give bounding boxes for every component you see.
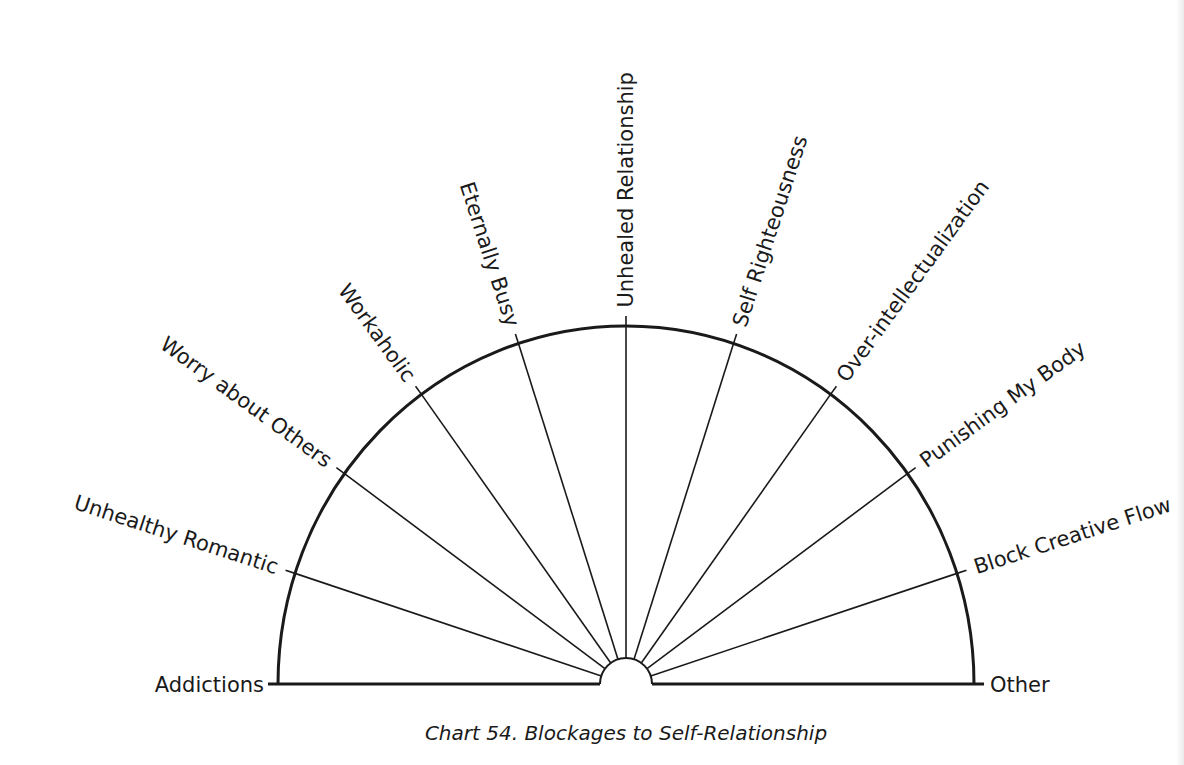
category-label: Block Creative Flow (971, 493, 1174, 580)
tick-mark (515, 334, 518, 344)
spoke-line (421, 394, 610, 663)
spoke-line (344, 474, 605, 669)
category-label: Unhealed Relationship (614, 72, 638, 307)
category-label: Addictions (155, 673, 264, 697)
spoke-line (641, 394, 830, 663)
category-label: Workaholic (333, 279, 420, 386)
tick-mark (908, 468, 916, 474)
category-label: Punishing My Body (915, 336, 1090, 472)
spoke-line (651, 573, 957, 676)
tick-mark (286, 570, 296, 573)
tick-mark (416, 386, 422, 394)
category-label: Over-intellectualization (832, 176, 994, 387)
category-label: Eternally Busy (455, 179, 524, 330)
category-label: Self Righteousness (728, 132, 813, 329)
category-label: Worry about Others (156, 332, 337, 473)
spoke-line (295, 573, 601, 676)
category-label: Unhealthy Romantic (71, 490, 281, 579)
page-edge-shadow (1176, 0, 1184, 765)
category-label: Other (990, 673, 1050, 697)
tick-mark (336, 468, 344, 474)
tick-mark (831, 386, 837, 394)
pendulum-chart: AddictionsUnhealthy RomanticWorry about … (0, 0, 1184, 765)
tick-mark (957, 570, 967, 573)
spoke-line (634, 344, 734, 660)
inner-semicircle (600, 658, 652, 684)
tick-mark (734, 334, 737, 344)
category-labels: AddictionsUnhealthy RomanticWorry about … (71, 72, 1174, 697)
spoke-line (518, 344, 618, 660)
chart-caption: Chart 54. Blockages to Self-Relationship (425, 721, 827, 745)
spoke-line (647, 474, 908, 669)
spokes (295, 326, 957, 676)
